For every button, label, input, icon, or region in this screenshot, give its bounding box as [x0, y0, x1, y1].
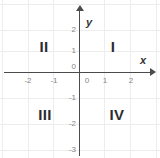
quadrant-label-four: IV	[100, 107, 134, 122]
quadrant-label-two: II	[27, 39, 61, 54]
gridline-vertical	[156, 0, 157, 158]
x-axis-arrow-icon	[150, 68, 156, 76]
y-axis-label: y	[86, 17, 92, 28]
y-tick-label--2: -2	[62, 120, 76, 128]
y-tick-label-2: 2	[62, 26, 76, 34]
y-axis-arrow-icon	[76, 5, 84, 11]
x-axis-line	[4, 72, 152, 73]
x-tick-label-2: 2	[123, 77, 139, 85]
x-axis-label: x	[140, 55, 146, 66]
y-tick-label-0: 0	[62, 63, 76, 71]
gridline-vertical	[2, 0, 3, 158]
x-tick-label-1: 1	[97, 77, 113, 85]
x-tick-label-0: 0	[79, 77, 95, 85]
quadrant-label-three: III	[28, 107, 62, 122]
y-tick-label--3: -3	[62, 146, 76, 154]
x-tick-label--2: -2	[20, 77, 36, 85]
y-tick-label-1: 1	[62, 47, 76, 55]
quadrant-label-one: I	[96, 39, 130, 54]
x-tick-label--1: -1	[46, 77, 62, 85]
y-tick-label--1: -1	[62, 94, 76, 102]
coordinate-plane-figure: x y -2 -1 0 1 2 2 1 0 -1 -2 -3 II I III …	[0, 0, 160, 158]
